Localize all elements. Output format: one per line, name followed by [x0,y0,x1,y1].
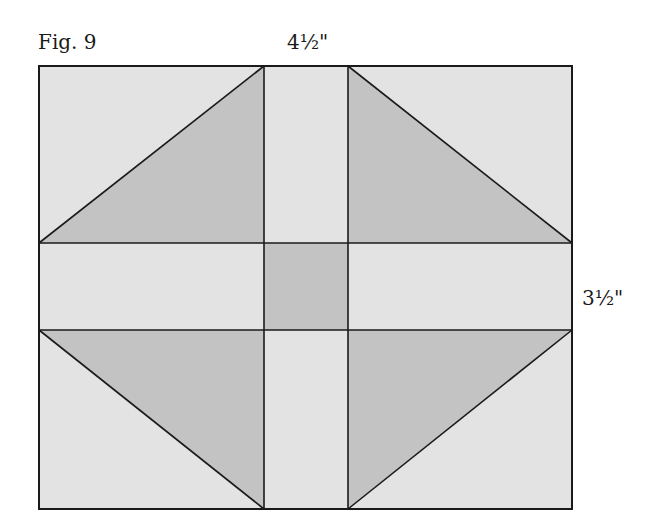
center-square [264,243,348,330]
quilt-block-diagram [0,0,663,531]
